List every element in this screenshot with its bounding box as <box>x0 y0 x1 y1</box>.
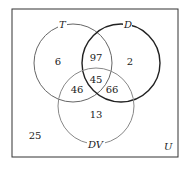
region-none: 25 <box>29 130 42 141</box>
region-d-dv: 66 <box>106 84 119 95</box>
set-d-circle <box>82 24 160 102</box>
universe-label: U <box>164 141 173 152</box>
region-t-d: 97 <box>90 52 103 63</box>
venn-diagram: T D DV U 6 2 13 97 46 66 45 25 <box>0 0 187 172</box>
region-d-only: 2 <box>127 56 133 67</box>
region-dv-only: 13 <box>90 109 103 120</box>
set-dv-label: DV <box>87 139 105 150</box>
region-all: 45 <box>90 74 103 85</box>
region-t-dv: 46 <box>71 84 84 95</box>
region-t-only: 6 <box>55 56 61 67</box>
set-d-label: D <box>123 19 132 30</box>
